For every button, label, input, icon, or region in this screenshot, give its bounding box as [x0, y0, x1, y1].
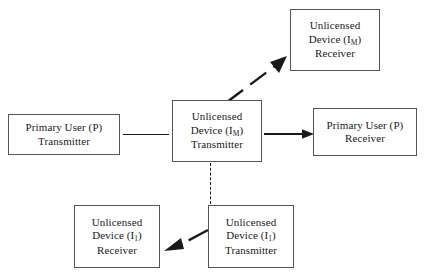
- node-label-line-1: Unlicensed: [192, 110, 242, 124]
- edge-primary-user-transmitter-to-unlicensed-device-m-transmitter: [123, 134, 169, 135]
- node-label-line-2: Device (I1): [226, 229, 276, 244]
- node-label-line-3: Receiver: [315, 47, 355, 61]
- node-label-line-2: Device (IM): [191, 124, 244, 139]
- node-label-line-1: Unlicensed: [226, 216, 276, 230]
- subscript: M: [233, 129, 240, 138]
- subscript: M: [351, 38, 358, 47]
- node-unlicensed-device-m-receiver[interactable]: Unlicensed Device (IM) Receiver: [290, 9, 380, 71]
- node-unlicensed-device-1-transmitter[interactable]: Unlicensed Device (I1) Transmitter: [208, 205, 294, 268]
- edge-unlicensed-device-m-transmitter-to-unlicensed-device-m-receiver: [225, 52, 293, 104]
- node-unlicensed-device-1-receiver[interactable]: Unlicensed Device (I1) Receiver: [74, 205, 160, 268]
- edge-unlicensed-device-1-transmitter-to-unlicensed-device-1-receiver: [160, 228, 210, 254]
- node-label-line-3: Transmitter: [191, 138, 243, 152]
- node-label-line-1: Primary User (P): [327, 119, 404, 133]
- subscript: 1: [268, 234, 272, 243]
- node-label-line-2: Transmitter: [38, 135, 90, 149]
- node-primary-user-receiver[interactable]: Primary User (P) Receiver: [313, 108, 417, 156]
- node-label-line-3: Transmitter: [225, 244, 277, 258]
- network-diagram: Primary User (P) Transmitter Unlicensed …: [0, 0, 429, 279]
- edge-unlicensed-device-m-transmitter-to-primary-user-receiver: [264, 127, 314, 141]
- edge-unlicensed-device-m-transmitter-to-unlicensed-device-1-transmitter: [210, 163, 211, 204]
- node-label-line-1: Primary User (P): [26, 121, 103, 135]
- node-label-line-2: Receiver: [345, 132, 385, 146]
- node-label-line-2: Device (I1): [92, 229, 142, 244]
- node-unlicensed-device-m-transmitter[interactable]: Unlicensed Device (IM) Transmitter: [172, 100, 262, 162]
- node-label-line-1: Unlicensed: [310, 19, 360, 33]
- node-primary-user-transmitter[interactable]: Primary User (P) Transmitter: [8, 114, 120, 155]
- node-label-line-2: Device (IM): [309, 33, 362, 48]
- node-label-line-1: Unlicensed: [92, 216, 142, 230]
- node-label-line-3: Receiver: [97, 244, 137, 258]
- subscript: 1: [134, 234, 138, 243]
